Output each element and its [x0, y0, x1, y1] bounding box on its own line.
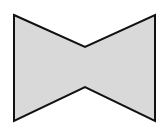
bowtie-shape — [14, 15, 155, 121]
diagram-canvas — [0, 0, 161, 133]
